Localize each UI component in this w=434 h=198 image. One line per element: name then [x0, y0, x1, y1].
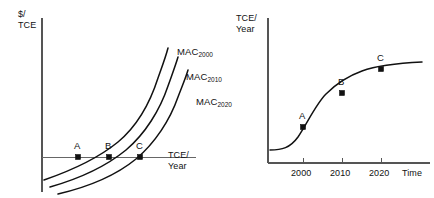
right-y-axis-label: TCE/ Year: [236, 13, 257, 35]
mac-2000-label: MAC2000: [177, 46, 213, 58]
left-point-label-c: C: [136, 140, 143, 151]
mac-2010-label: MAC2010: [186, 71, 222, 83]
left-point-marker-b: [107, 155, 112, 160]
left-y-axis-label-line1: $/: [18, 9, 36, 20]
right-point-label-c: C: [377, 52, 384, 63]
right-y-axis-label-line2: Year: [236, 24, 257, 35]
left-x-axis-label: TCE/ Year: [168, 150, 189, 172]
right-point-label-b: B: [338, 76, 344, 87]
mac-2020-label-base: MAC: [196, 96, 217, 107]
left-point-marker-a: [76, 155, 81, 160]
mac-2010-label-base: MAC: [186, 71, 207, 82]
left-point-marker-c: [138, 155, 143, 160]
right-point-marker-b: [340, 91, 345, 96]
mac-2000-label-base: MAC: [177, 46, 198, 57]
right-y-axis-label-line1: TCE/: [236, 13, 257, 24]
left-point-label-b: B: [105, 140, 111, 151]
left-x-axis-label-line2: Year: [168, 161, 189, 172]
left-chart-panel: $/ TCE TCE/ Year MAC2000 MAC2010 MAC2020…: [0, 0, 230, 198]
right-x-tick-label-2000: 2000: [291, 168, 311, 179]
tce-sigmoid-curve: [270, 62, 422, 150]
right-point-marker-a: [301, 125, 306, 130]
left-x-axis-label-line1: TCE/: [168, 150, 189, 161]
right-point-marker-c: [379, 67, 384, 72]
figure-container: $/ TCE TCE/ Year MAC2000 MAC2010 MAC2020…: [0, 0, 434, 198]
mac-2000-curve: [44, 48, 168, 180]
right-x-tick-label-2020: 2020: [369, 168, 389, 179]
left-y-axis-label-line2: TCE: [18, 20, 36, 31]
mac-2000-label-year: 2000: [198, 51, 212, 58]
mac-2020-label: MAC2020: [196, 96, 232, 108]
right-point-label-a: A: [299, 110, 305, 121]
mac-2020-curve: [58, 70, 188, 194]
right-x-axis-label: Time: [402, 168, 422, 179]
right-chart-panel: TCE/ Year 2000 2010 2020 Time A B C: [230, 0, 434, 198]
left-point-label-a: A: [74, 140, 80, 151]
left-y-axis-label: $/ TCE: [18, 9, 36, 31]
right-x-tick-label-2010: 2010: [330, 168, 350, 179]
mac-2010-label-year: 2010: [207, 76, 221, 83]
